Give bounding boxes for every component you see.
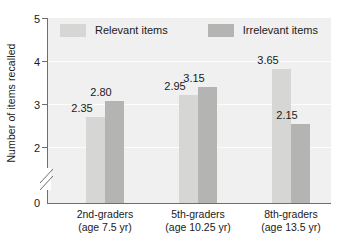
y-tick-label-0: 0	[24, 198, 40, 209]
legend-entry-irrelevant-items: Irrelevant items	[208, 24, 318, 37]
x-axis-label-8th-graders-line1: 8th-graders	[264, 208, 318, 220]
x-axis-label-5th-graders: 5th-graders (age 10.25 yr)	[148, 208, 248, 234]
y-tick-label-2: 2	[24, 143, 40, 154]
legend: Relevant items Irrelevant items	[60, 21, 318, 39]
bar-relevant-8th-graders	[272, 69, 291, 203]
bar-value-irrelevant-2nd-graders: 2.80	[86, 87, 116, 98]
x-axis-line	[47, 203, 331, 204]
y-tick-label-5: 5	[24, 14, 40, 25]
bar-value-relevant-2nd-graders: 2.35	[67, 103, 97, 114]
bar-value-irrelevant-5th-graders: 3.15	[179, 73, 209, 84]
y-axis-break-icon	[38, 166, 60, 192]
x-axis-label-2nd-graders-line2: (age 7.5 yr)	[55, 221, 155, 234]
gridline-4	[48, 61, 331, 62]
y-tick-label-3: 3	[24, 100, 40, 111]
bar-relevant-2nd-graders	[86, 117, 105, 203]
legend-entry-relevant-items: Relevant items	[60, 24, 168, 37]
bar-irrelevant-5th-graders	[198, 87, 217, 203]
bar-chart-figure: Number of items recalled 5 4 3 2 0 2.35 …	[0, 0, 345, 241]
bar-irrelevant-8th-graders	[291, 124, 310, 203]
y-tick-label-4: 4	[24, 57, 40, 68]
bar-irrelevant-2nd-graders	[105, 101, 124, 203]
bar-relevant-5th-graders	[179, 95, 198, 203]
x-axis-label-2nd-graders-line1: 2nd-graders	[77, 208, 134, 220]
legend-swatch-irrelevant-items	[208, 24, 234, 37]
legend-label-irrelevant-items: Irrelevant items	[243, 24, 318, 36]
legend-label-relevant-items: Relevant items	[95, 24, 168, 36]
x-axis-label-2nd-graders: 2nd-graders (age 7.5 yr)	[55, 208, 155, 234]
x-axis-label-5th-graders-line1: 5th-graders	[171, 208, 225, 220]
legend-swatch-relevant-items	[60, 24, 86, 37]
bar-value-relevant-8th-graders: 3.65	[253, 55, 283, 66]
y-axis-title-text: Number of items recalled	[5, 43, 17, 162]
x-axis-label-8th-graders-line2: (age 13.5 yr)	[241, 221, 341, 234]
y-axis-title: Number of items recalled	[0, 0, 22, 205]
x-axis-label-5th-graders-line2: (age 10.25 yr)	[148, 221, 248, 234]
x-axis-label-8th-graders: 8th-graders (age 13.5 yr)	[241, 208, 341, 234]
bar-value-irrelevant-8th-graders: 2.15	[272, 110, 302, 121]
